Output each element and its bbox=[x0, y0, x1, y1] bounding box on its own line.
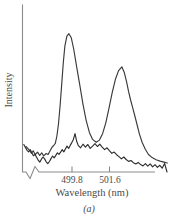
baseline-noise-trace bbox=[24, 134, 167, 172]
x-tick-label-2: 501.6 bbox=[99, 175, 121, 185]
figure-caption: (a) bbox=[83, 203, 95, 215]
spectrum-figure: 499.8 501.6 Wavelength (nm) Intensity (a… bbox=[0, 0, 178, 217]
x-axis-line-with-break bbox=[23, 166, 156, 179]
x-axis-title: Wavelength (nm) bbox=[56, 187, 129, 199]
spectrum-trace bbox=[26, 34, 167, 163]
x-tick-label-1: 499.8 bbox=[61, 175, 83, 185]
y-axis-title: Intensity bbox=[3, 73, 14, 108]
spectrum-plot: 499.8 501.6 Wavelength (nm) Intensity (a… bbox=[0, 0, 178, 217]
